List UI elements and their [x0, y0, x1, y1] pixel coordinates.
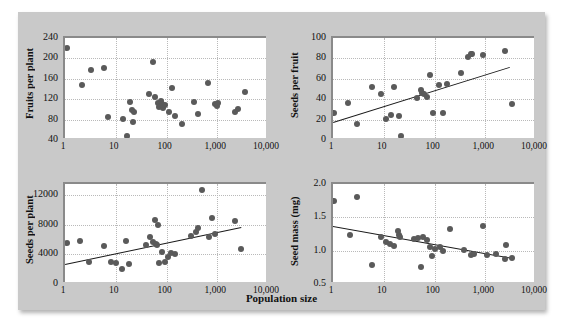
- y-tick-label: 1.0: [281, 243, 326, 254]
- data-point: [172, 113, 178, 119]
- data-point: [101, 243, 107, 249]
- data-point: [502, 48, 508, 54]
- data-point: [369, 84, 375, 90]
- data-point: [79, 82, 85, 88]
- y-tick-label: 0.5: [281, 277, 326, 288]
- data-point: [391, 243, 397, 249]
- data-point: [77, 238, 83, 244]
- y-tick-label: 120: [18, 92, 58, 103]
- x-tick-label: 100: [157, 141, 171, 151]
- data-point: [195, 111, 201, 117]
- data-point: [503, 242, 509, 248]
- data-point: [120, 116, 126, 122]
- plot-area-seeds-per-fruit: [331, 36, 534, 138]
- data-point: [418, 264, 424, 270]
- x-tick-label: 10,000: [521, 141, 547, 151]
- data-point: [105, 114, 111, 120]
- data-point: [235, 106, 241, 112]
- y-gridline: [65, 58, 266, 59]
- data-point: [331, 110, 337, 116]
- x-tick-label: 1: [61, 141, 66, 151]
- data-point: [150, 59, 156, 65]
- data-point: [119, 266, 125, 272]
- data-point: [130, 119, 136, 125]
- y-tick-label: 4000: [18, 247, 58, 258]
- plot-area-fruits-per-plant: [63, 36, 266, 138]
- x-tick-label: 100: [425, 141, 439, 151]
- data-point: [398, 133, 404, 138]
- data-point: [447, 226, 453, 232]
- data-point: [347, 232, 353, 238]
- data-point: [471, 251, 477, 257]
- x-gridline: [384, 184, 385, 282]
- data-point: [391, 84, 397, 90]
- y-gridline: [333, 58, 534, 59]
- data-point: [126, 261, 132, 267]
- y-gridline: [65, 120, 266, 121]
- data-point: [64, 45, 70, 51]
- y-gridline: [333, 120, 534, 121]
- y-tick-label: 80: [18, 112, 58, 123]
- data-point: [191, 99, 197, 105]
- data-point: [331, 198, 337, 204]
- data-point: [188, 233, 194, 239]
- data-point: [388, 112, 394, 118]
- y-gridline: [333, 217, 534, 218]
- y-gridline: [65, 99, 266, 100]
- y-tick-label: 1.5: [281, 210, 326, 221]
- x-gridline: [116, 184, 117, 282]
- data-point: [458, 70, 464, 76]
- data-point: [369, 262, 375, 268]
- data-point: [195, 225, 201, 231]
- data-point: [502, 256, 508, 262]
- data-point: [469, 51, 475, 57]
- data-point: [101, 65, 107, 71]
- y-gridline: [333, 79, 534, 80]
- y-tick-label: 40: [281, 92, 326, 103]
- data-point: [64, 240, 70, 246]
- x-gridline: [485, 184, 486, 282]
- data-point: [146, 91, 152, 97]
- data-point: [345, 100, 351, 106]
- x-axis-title: Population size: [18, 292, 545, 304]
- data-point: [209, 215, 215, 221]
- data-point: [155, 222, 161, 228]
- y-tick-label: 0: [281, 133, 326, 144]
- chart-panel-seed-mass: Seed mass (mg) 1101001,00010,0000.51.01.…: [281, 162, 545, 297]
- x-tick-label: 10: [109, 141, 119, 151]
- data-point: [396, 113, 402, 119]
- data-point: [199, 187, 205, 193]
- y-tick-label: 80: [281, 51, 326, 62]
- x-tick-label: 10,000: [253, 141, 279, 151]
- x-gridline: [167, 38, 168, 138]
- x-gridline: [116, 38, 117, 138]
- data-point: [169, 85, 175, 91]
- chart-panel-seeds-per-plant: Seeds per plant 1101001,00010,0000400080…: [18, 162, 281, 297]
- y-tick-label: 20: [281, 112, 326, 123]
- y-tick-label: 160: [18, 71, 58, 82]
- data-point: [86, 259, 92, 265]
- data-point: [179, 121, 185, 127]
- y-tick-label: 240: [18, 31, 58, 42]
- y-gridline: [65, 79, 266, 80]
- x-gridline: [435, 184, 436, 282]
- y-tick-label: 40: [18, 133, 58, 144]
- x-gridline: [167, 184, 168, 282]
- x-gridline: [217, 38, 218, 138]
- data-point: [238, 246, 244, 252]
- y-tick-label: 12000: [18, 188, 58, 199]
- data-point: [113, 260, 119, 266]
- data-point: [354, 121, 360, 127]
- data-point: [440, 248, 446, 254]
- data-point: [154, 242, 160, 248]
- data-point: [156, 260, 162, 266]
- data-point: [172, 251, 178, 257]
- data-point: [436, 82, 442, 88]
- data-point: [424, 237, 430, 243]
- y-tick-label: 60: [281, 71, 326, 82]
- data-point: [88, 67, 94, 73]
- y-gridline: [65, 195, 266, 196]
- data-point: [424, 94, 430, 100]
- data-point: [205, 80, 211, 86]
- figure-panel: Fruits per plant 1101001,00010,000408012…: [18, 12, 545, 310]
